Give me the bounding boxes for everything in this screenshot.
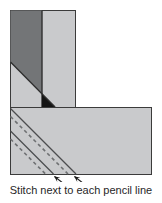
callout-arrow-left: [55, 177, 69, 183]
horizontal-fabric-strip: [11, 108, 152, 175]
diagram-page: Stitch next to each pencil line: [0, 0, 162, 203]
callout-arrow-right: [75, 177, 89, 183]
caption: Stitch next to each pencil line: [0, 184, 162, 197]
quilt-stitch-diagram: [0, 0, 162, 182]
